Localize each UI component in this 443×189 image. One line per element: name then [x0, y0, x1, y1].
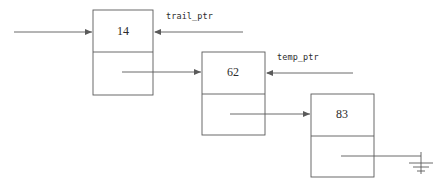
- temp-ptr-arrowhead: [266, 70, 273, 76]
- node1-to-node2-link: [122, 69, 201, 75]
- node-1-value: 14: [117, 24, 129, 38]
- temp-ptr-label: temp_ptr: [277, 52, 319, 62]
- trail-ptr-label: trail_ptr: [166, 11, 213, 21]
- node2-to-node3-link: [230, 111, 310, 117]
- linked-list-diagram: 14 trail_ptr 62 temp_ptr: [0, 0, 443, 189]
- temp-ptr-annotation: temp_ptr: [266, 52, 353, 77]
- node-1-box: [93, 10, 153, 95]
- head-pointer-arrow: [14, 29, 92, 35]
- trail-ptr-annotation: trail_ptr: [154, 11, 243, 36]
- trail-ptr-arrowhead: [154, 29, 161, 35]
- node-2-value: 62: [227, 65, 239, 79]
- null-terminator-ground-icon: [341, 152, 433, 174]
- list-node-3: 83: [311, 94, 374, 177]
- list-node-2: 62: [202, 52, 265, 135]
- diagram-svg-surface: 14 trail_ptr 62 temp_ptr: [0, 0, 443, 189]
- node1-to-node2-arrowhead: [194, 69, 201, 75]
- head-pointer-arrowhead: [85, 29, 92, 35]
- node-3-value: 83: [336, 107, 348, 121]
- list-node-1: 14: [93, 10, 153, 95]
- node2-to-node3-arrowhead: [303, 111, 310, 117]
